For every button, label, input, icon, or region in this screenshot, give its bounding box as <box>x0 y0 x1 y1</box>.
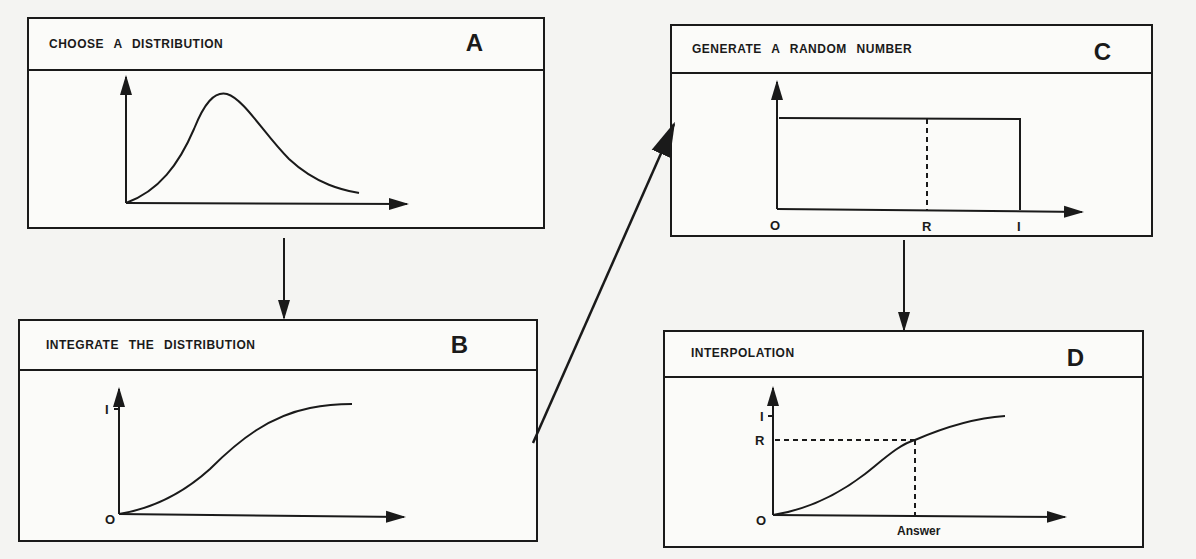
cdf-curve <box>773 416 1005 515</box>
panel-choose-distribution: CHOOSE A DISTRIBUTION A <box>27 17 545 229</box>
r-label: R <box>755 433 765 448</box>
panel-integrate-distribution: INTEGRATE THE DISTRIBUTION B I O <box>18 319 538 542</box>
cumulative-plot: I O <box>20 321 540 544</box>
density-curve <box>126 94 359 203</box>
y-top-label: I <box>760 409 764 424</box>
cdf-curve <box>119 404 352 514</box>
x-axis-arrow <box>126 203 407 204</box>
x-r-label: R <box>922 219 932 234</box>
x-origin-label: O <box>770 218 780 233</box>
panel-interpolation: INTERPOLATION D I R O Answer <box>663 330 1144 548</box>
y-top-label: I <box>105 402 109 417</box>
origin-label: O <box>105 512 115 527</box>
uniform-density <box>779 118 1020 210</box>
interpolation-plot: I R O Answer <box>665 332 1146 550</box>
x-one-label: I <box>1017 219 1021 234</box>
uniform-plot: O R I <box>672 26 1155 239</box>
origin-label: O <box>756 513 766 528</box>
distribution-plot <box>29 19 547 231</box>
answer-label: Answer <box>897 524 941 538</box>
arrow-b-to-c <box>533 124 674 443</box>
panel-generate-random-number: GENERATE A RANDOM NUMBER C O R I <box>670 24 1153 237</box>
